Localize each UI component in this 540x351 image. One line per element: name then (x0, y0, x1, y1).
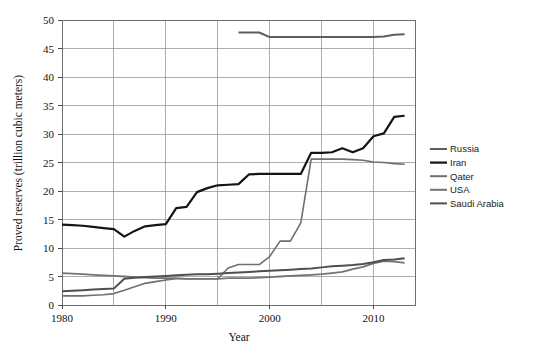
y-tick-label: 45 (43, 43, 55, 55)
y-tick-label: 25 (43, 157, 55, 169)
x-tick-label: 1980 (51, 312, 74, 324)
line-chart: 05101520253035404550 1980199020002010 Ye… (0, 0, 540, 351)
series-line-usa (62, 261, 405, 279)
y-axis-tick-labels: 05101520253035404550 (43, 14, 55, 311)
x-tick-label: 2000 (259, 312, 282, 324)
y-tick-label: 15 (43, 214, 55, 226)
y-tick-label: 35 (43, 100, 55, 112)
x-tick-label: 2010 (362, 312, 385, 324)
y-tick-label: 40 (43, 71, 55, 83)
x-axis-tick-labels: 1980199020002010 (51, 312, 385, 324)
legend-label-qater: Qater (450, 171, 474, 182)
legend: RussiaIranQaterUSASaudi Arabia (430, 143, 505, 208)
y-tick-label: 20 (43, 185, 55, 197)
x-tick-label: 1990 (155, 312, 178, 324)
legend-label-russia: Russia (450, 143, 480, 154)
legend-label-iran: Iran (450, 157, 466, 168)
legend-label-usa: USA (450, 184, 470, 195)
chart-canvas: 05101520253035404550 1980199020002010 Ye… (0, 0, 540, 351)
y-tick-label: 5 (49, 271, 55, 283)
y-tick-label: 50 (43, 14, 55, 26)
y-tick-label: 30 (43, 128, 55, 140)
axis-ticks (58, 20, 373, 309)
y-tick-label: 0 (49, 299, 55, 311)
legend-label-saudi-arabia: Saudi Arabia (450, 198, 505, 209)
grid-lines (62, 20, 415, 305)
x-axis-title: Year (228, 331, 249, 343)
y-axis-title: Proved reserves (trillion cubic meters) (12, 75, 25, 251)
series-line-saudi-arabia (62, 258, 405, 291)
y-tick-label: 10 (43, 242, 55, 254)
data-series-group (62, 33, 405, 296)
